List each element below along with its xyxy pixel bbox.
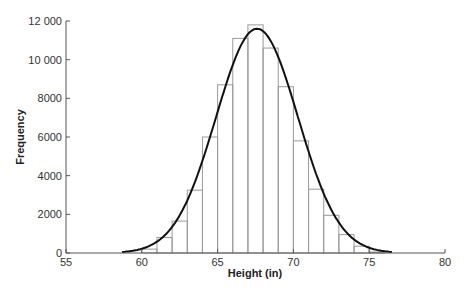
histogram-bar (142, 249, 157, 253)
y-tick-label: 8000 (38, 92, 62, 104)
histogram-chart: 0200040006000800010 00012 000 5560657075… (0, 0, 474, 294)
x-tick-label: 70 (287, 256, 299, 268)
histogram-bar (187, 190, 202, 253)
histogram-bar (309, 189, 324, 253)
y-axis-title: Frequency (14, 108, 26, 165)
x-tick-label: 80 (439, 256, 451, 268)
histogram-bar (218, 85, 233, 253)
histogram-bar (248, 25, 263, 253)
x-axis-ticks: 556065707580 (60, 249, 451, 268)
y-tick-label: 6000 (38, 131, 62, 143)
histogram-bar (324, 215, 339, 253)
x-tick-label: 75 (363, 256, 375, 268)
x-tick-label: 55 (60, 256, 72, 268)
y-tick-label: 12 000 (28, 15, 62, 27)
y-axis-ticks: 0200040006000800010 00012 000 (28, 15, 70, 259)
y-tick-label: 2000 (38, 208, 62, 220)
y-tick-label: 10 000 (28, 54, 62, 66)
histogram-bar (293, 141, 308, 253)
x-tick-label: 65 (211, 256, 223, 268)
x-tick-label: 60 (136, 256, 148, 268)
histogram-bar (233, 38, 248, 253)
histogram-bar (263, 48, 278, 253)
y-tick-label: 4000 (38, 170, 62, 182)
histogram-bar (278, 87, 293, 253)
histogram-bar (172, 221, 187, 253)
normal-curve (122, 29, 392, 252)
x-axis-title: Height (in) (228, 267, 283, 279)
